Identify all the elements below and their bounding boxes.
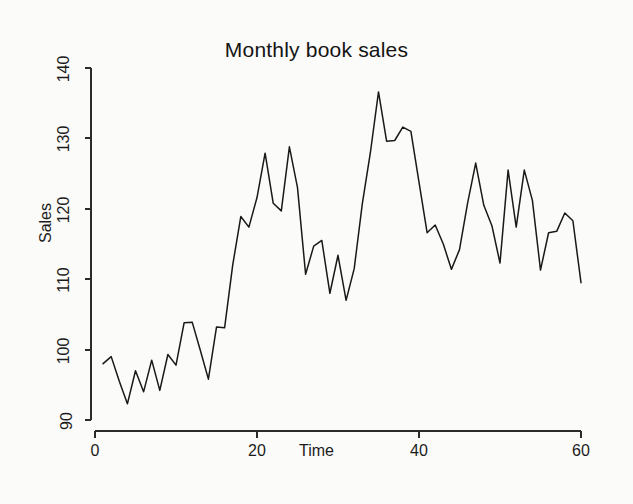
y-tick-label: 130 (55, 119, 73, 159)
series-line-sales (103, 92, 581, 404)
y-tick-label: 100 (55, 331, 73, 371)
chart-figure: Monthly book sales 140 130 120 110 100 9… (0, 0, 633, 504)
y-axis-ticks (85, 68, 91, 420)
line-chart-plot-area (0, 0, 633, 504)
y-tick-label: 140 (55, 49, 73, 89)
y-axis-label: Sales (37, 183, 55, 263)
y-tick-label: 120 (55, 190, 73, 230)
x-axis-label: Time (0, 442, 633, 460)
y-tick-label: 110 (55, 260, 73, 300)
x-axis-ticks (95, 431, 581, 438)
y-tick-label: 90 (58, 401, 76, 441)
